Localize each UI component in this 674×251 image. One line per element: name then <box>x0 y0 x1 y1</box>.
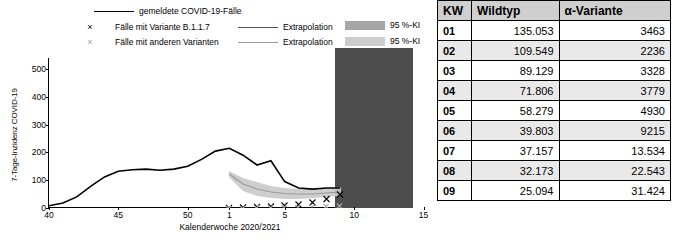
legend-swatch-icon <box>345 21 385 30</box>
table-row: 05 58.279 4930 <box>438 101 671 121</box>
legend-line-icon <box>94 11 134 12</box>
table-header-row: KW Wildtyp α-Variante <box>438 1 671 21</box>
chart-panel: gemeldete COVID-19-Fälle × Fälle mit Var… <box>0 0 434 251</box>
chart-legend: gemeldete COVID-19-Fälle × Fälle mit Var… <box>70 6 425 52</box>
table-row: 02 109.549 2236 <box>438 41 671 61</box>
cell-wildtyp: 32.173 <box>472 161 560 181</box>
legend-item-b117: × Fälle mit Variante B.1.1.7 <box>70 22 210 32</box>
cell-kw: 01 <box>438 21 472 41</box>
cell-kw: 06 <box>438 121 472 141</box>
cell-kw: 04 <box>438 81 472 101</box>
legend-item-other-variants: × Fälle mit anderen Varianten <box>70 37 219 47</box>
cell-kw: 02 <box>438 41 472 61</box>
cell-alpha: 2236 <box>559 41 671 61</box>
legend-label: 95 %-KI <box>390 20 420 30</box>
legend-label: 95 %-KI <box>390 36 420 46</box>
table-row: 07 37.157 13.534 <box>438 141 671 161</box>
y-tick-label: 400 <box>32 92 49 102</box>
x-marker-grey-icon: × <box>70 38 110 47</box>
cell-wildtyp: 71.806 <box>472 81 560 101</box>
legend-item-extrapolation-1: Extrapolation <box>238 22 333 32</box>
legend-item-reported-cases: gemeldete COVID-19-Fälle <box>94 6 242 16</box>
table-row: 08 32.173 22.543 <box>438 161 671 181</box>
cell-kw: 09 <box>438 181 472 201</box>
legend-line-grey-icon <box>238 42 278 43</box>
cell-kw: 03 <box>438 61 472 81</box>
cell-kw: 07 <box>438 141 472 161</box>
cell-wildtyp: 109.549 <box>472 41 560 61</box>
cell-alpha: 3328 <box>559 61 671 81</box>
y-axis-label: 7-Tage-Inzidenz COVID-19 <box>0 0 7 60</box>
variant-table: KW Wildtyp α-Variante 01 135.053 3463 02… <box>437 0 671 201</box>
x-tick-label: 1 <box>227 207 232 220</box>
x-tick-label: 45 <box>114 207 123 220</box>
x-axis-label: Kalenderwoche 2020/2021 <box>48 222 412 232</box>
plot-area: 0 100 200 300 400 500 40 45 50 1 5 10 <box>48 58 412 208</box>
cell-wildtyp: 89.129 <box>472 61 560 81</box>
cell-alpha: 22.543 <box>559 161 671 181</box>
y-tick-label: 200 <box>32 147 49 157</box>
column-header-wildtyp: Wildtyp <box>472 1 560 21</box>
y-tick-label: 100 <box>32 175 49 185</box>
cell-alpha: 13.534 <box>559 141 671 161</box>
legend-label: Extrapolation <box>283 22 333 32</box>
table-row: 04 71.806 3779 <box>438 81 671 101</box>
cell-kw: 05 <box>438 101 472 121</box>
cell-alpha: 31.424 <box>559 181 671 201</box>
legend-label: gemeldete COVID-19-Fälle <box>139 6 242 16</box>
table-row: 01 135.053 3463 <box>438 21 671 41</box>
table-row: 06 39.803 9215 <box>438 121 671 141</box>
x-tick-label: 5 <box>282 207 287 220</box>
legend-label: Fälle mit anderen Varianten <box>115 37 219 47</box>
legend-line-icon <box>238 27 278 28</box>
x-tick-label: 10 <box>349 207 358 220</box>
y-tick-label: 300 <box>32 120 49 130</box>
legend-item-ci-1: 95 %-KI <box>345 20 420 30</box>
legend-item-extrapolation-2: Extrapolation <box>238 37 333 47</box>
cell-alpha: 4930 <box>559 101 671 121</box>
chart-series-svg <box>49 58 413 208</box>
column-header-alpha: α-Variante <box>559 1 671 21</box>
legend-label: Fälle mit Variante B.1.1.7 <box>115 22 210 32</box>
cell-wildtyp: 58.279 <box>472 101 560 121</box>
cell-alpha: 3779 <box>559 81 671 101</box>
variant-table-panel: KW Wildtyp α-Variante 01 135.053 3463 02… <box>437 0 674 251</box>
table-row: 09 25.094 31.424 <box>438 181 671 201</box>
legend-swatch-light-icon <box>345 37 385 46</box>
x-tick-label: 15 <box>419 207 428 220</box>
table-row: 03 89.129 3328 <box>438 61 671 81</box>
column-header-kw: KW <box>438 1 472 21</box>
cell-wildtyp: 135.053 <box>472 21 560 41</box>
legend-label: Extrapolation <box>283 37 333 47</box>
cell-wildtyp: 39.803 <box>472 121 560 141</box>
x-marker-icon: × <box>70 23 110 32</box>
legend-item-ci-2: 95 %-KI <box>345 36 420 46</box>
y-tick-label: 500 <box>32 64 49 74</box>
x-tick-label: 40 <box>44 207 53 220</box>
cell-alpha: 9215 <box>559 121 671 141</box>
x-tick-label: 50 <box>183 207 192 220</box>
cell-alpha: 3463 <box>559 21 671 41</box>
cell-wildtyp: 25.094 <box>472 181 560 201</box>
cell-wildtyp: 37.157 <box>472 141 560 161</box>
cell-kw: 08 <box>438 161 472 181</box>
